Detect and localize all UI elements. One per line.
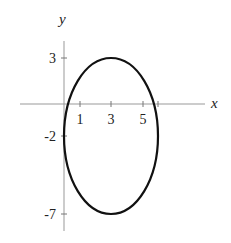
ellipse-curve [64, 58, 158, 214]
y-tick-label-3: 3 [49, 51, 56, 66]
x-tick-label-3: 3 [108, 112, 115, 127]
y-axis-label: y [57, 11, 66, 27]
x-tick-label-1: 1 [77, 112, 84, 127]
x-axis-label: x [210, 95, 218, 111]
ellipse-chart: 1 3 5 3 -2 -7 x y [0, 0, 231, 243]
x-tick-label-5: 5 [140, 112, 147, 127]
y-tick-label-neg2: -2 [44, 129, 56, 144]
y-tick-label-neg7: -7 [44, 207, 56, 222]
